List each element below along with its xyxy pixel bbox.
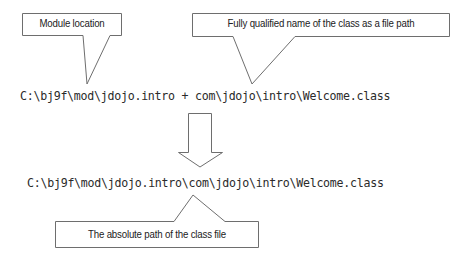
diagram-shapes: [0, 0, 455, 264]
callout-label-fully-qualified-name: Fully qualified name of the class as a f…: [207, 17, 434, 29]
callout-label-absolute-path: The absolute path of the class file: [67, 228, 247, 240]
callout-label-module-location: Module location: [28, 17, 116, 29]
module-path-diagram: Module location Fully qualified name of …: [0, 0, 455, 264]
down-arrow-icon: [179, 114, 223, 168]
resulting-absolute-path: C:\bj9f\mod\jdojo.intro\com\jdojo\intro\…: [27, 176, 384, 190]
path-expression: C:\bj9f\mod\jdojo.intro + com\jdojo\intr…: [20, 89, 390, 103]
